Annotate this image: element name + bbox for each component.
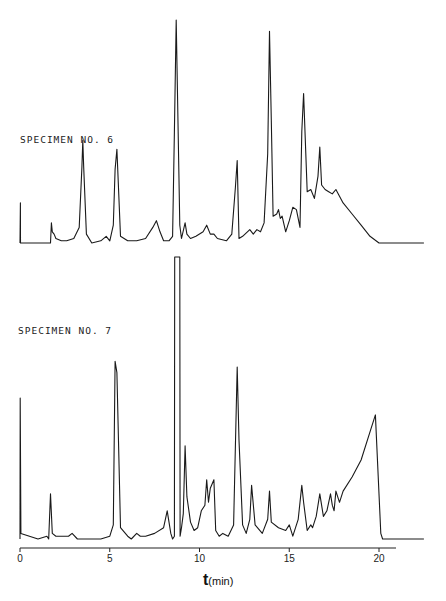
- chromatogram-plot: [0, 0, 446, 601]
- x-axis-label: t(min): [203, 571, 233, 589]
- x-tick-label: 10: [194, 553, 205, 564]
- x-tick-label: 0: [17, 553, 23, 564]
- specimen-7-label: SPECIMEN NO. 7: [18, 325, 112, 336]
- specimen-6-label: SPECIMEN NO. 6: [20, 134, 114, 145]
- x-axis-unit: (min): [208, 575, 233, 587]
- x-tick-label: 20: [373, 553, 384, 564]
- specimen-6-trace: [20, 20, 424, 243]
- x-tick-label: 15: [284, 553, 295, 564]
- x-tick-label: 5: [107, 553, 113, 564]
- specimen-7-trace: [20, 257, 424, 539]
